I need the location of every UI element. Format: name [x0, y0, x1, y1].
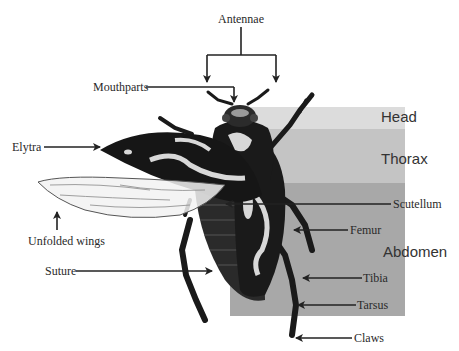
label-unfolded-wings: Unfolded wings [28, 234, 105, 249]
label-femur: Femur [350, 223, 381, 238]
beetle-unfolded-wing [38, 177, 225, 217]
region-label-abdomen: Abdomen [383, 243, 447, 260]
label-tibia: Tibia [363, 271, 388, 286]
beetle-anatomy-diagram: Head Thorax Abdomen Antennae Mouthparts … [0, 0, 459, 351]
region-label-head: Head [381, 108, 417, 125]
label-antennae: Antennae [218, 12, 264, 27]
label-elytra: Elytra [12, 140, 41, 155]
label-claws: Claws [354, 331, 384, 346]
label-tarsus: Tarsus [357, 298, 388, 313]
beetle-illustration [0, 0, 459, 351]
antennae-pointer [207, 27, 276, 82]
label-mouthparts: Mouthparts [93, 80, 148, 95]
label-suture: Suture [45, 264, 76, 279]
label-scutellum: Scutellum [393, 197, 442, 212]
region-label-thorax: Thorax [381, 150, 428, 167]
beetle-antennae [208, 90, 268, 104]
